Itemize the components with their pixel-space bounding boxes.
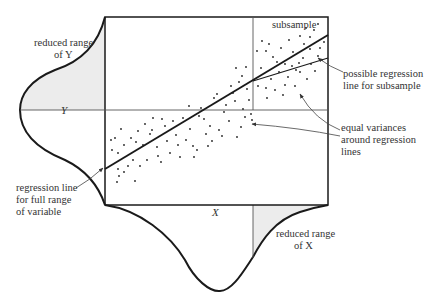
scatter-point — [213, 97, 215, 99]
scatter-point — [196, 149, 198, 151]
scatter-point — [161, 118, 163, 120]
scatter-point — [205, 133, 207, 135]
label-regression-full-2: for full range — [16, 194, 72, 205]
scatter-point — [216, 93, 218, 95]
scatter-point — [111, 149, 113, 151]
scatter-point — [193, 156, 195, 158]
label-regression-full-3: of variable — [16, 206, 62, 217]
scatter-point — [118, 175, 120, 177]
scatter-point — [152, 117, 154, 119]
label-reduced-range-y: reduced range — [34, 37, 94, 48]
scatter-point — [294, 85, 296, 87]
scatter-point — [317, 55, 319, 57]
scatter-point — [287, 76, 289, 78]
scatter-point — [280, 47, 282, 49]
scatter-point — [309, 36, 311, 38]
scatter-point — [127, 165, 129, 167]
scatter-point — [185, 139, 187, 141]
scatter-point — [250, 113, 252, 115]
scatter-point — [282, 94, 284, 96]
scatter-point — [245, 66, 247, 68]
scatter-point — [244, 116, 246, 118]
scatter-point — [123, 144, 125, 146]
scatter-point — [246, 88, 248, 90]
scatter-point — [223, 111, 225, 113]
scatter-point — [198, 115, 200, 117]
scatter-point — [116, 181, 118, 183]
scatter-point — [189, 128, 191, 130]
scatter-point — [230, 85, 232, 87]
regression-line-full-range — [105, 35, 328, 169]
scatter-point — [175, 134, 177, 136]
scatter-point — [272, 56, 274, 58]
scatter-point — [211, 140, 213, 142]
scatter-point — [110, 139, 112, 141]
regression-line-subsample — [253, 58, 328, 81]
scatter-point — [146, 159, 148, 161]
scatter-point — [157, 155, 159, 157]
arrow-equal-variances-upper — [300, 94, 340, 130]
scatter-point — [292, 51, 294, 53]
scatter-point — [288, 39, 290, 41]
scatter-point — [248, 99, 250, 101]
scatter-point — [241, 75, 243, 77]
scatter-point — [257, 85, 259, 87]
scatter-point — [306, 78, 308, 80]
scatter-point — [218, 129, 220, 131]
label-subsample: subsample — [272, 19, 317, 30]
label-equal-variances-3: lines — [341, 146, 361, 157]
scatter-point — [132, 159, 134, 161]
scatter-point — [309, 48, 311, 50]
scatter-point — [266, 97, 268, 99]
label-reduced-range-y-of: of Y — [54, 49, 73, 60]
scatter-point — [265, 87, 267, 89]
scatter-point — [177, 144, 179, 146]
scatter-points — [110, 23, 325, 183]
scatter-point — [164, 125, 166, 127]
scatter-point — [299, 71, 301, 73]
scatter-point — [149, 133, 151, 135]
scatter-point — [303, 43, 305, 45]
scatter-point — [291, 65, 293, 67]
scatter-point — [117, 168, 119, 170]
scatter-point — [156, 146, 158, 148]
scatter-point — [268, 43, 270, 45]
scatter-point — [276, 61, 278, 63]
label-regression-full: regression line — [16, 182, 78, 193]
scatter-point — [256, 50, 258, 52]
scatter-point — [302, 57, 304, 59]
scatter-point — [144, 123, 146, 125]
scatter-point — [139, 165, 141, 167]
scatter-point — [182, 117, 184, 119]
scatter-point — [188, 105, 190, 107]
scatter-point — [274, 89, 276, 91]
label-equal-variances: equal variances — [341, 122, 406, 133]
scatter-point — [299, 35, 301, 37]
scatter-point — [240, 126, 242, 128]
label-equal-variances-2: around regression — [341, 134, 417, 145]
scatter-point — [169, 152, 171, 154]
scatter-point — [179, 156, 181, 158]
label-reduced-range-x-of: of X — [294, 240, 313, 251]
scatter-point — [238, 81, 240, 83]
scatter-point — [242, 108, 244, 110]
scatter-point — [234, 100, 236, 102]
scatter-point — [228, 120, 230, 122]
scatter-point — [284, 63, 286, 65]
scatter-point — [120, 128, 122, 130]
label-reduced-range-x: reduced range — [276, 228, 336, 239]
arrow-equal-variances-lower — [252, 124, 340, 136]
scatter-point — [134, 180, 136, 182]
scatter-point — [151, 129, 153, 131]
scatter-point — [298, 62, 300, 64]
scatter-point — [265, 50, 267, 52]
scatter-point — [319, 47, 321, 49]
scatter-point — [166, 140, 168, 142]
scatter-point — [235, 67, 237, 69]
scatter-point — [123, 171, 125, 173]
scatter-point — [172, 120, 174, 122]
scatter-point — [284, 84, 286, 86]
scatter-point — [260, 67, 262, 69]
scatter-point — [261, 40, 263, 42]
scatter-point — [270, 78, 272, 80]
